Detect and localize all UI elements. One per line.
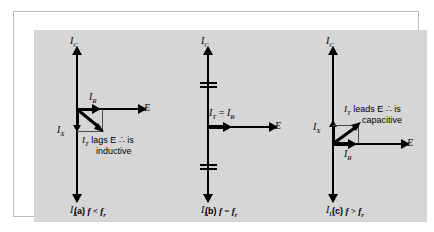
- panel-b-caption-expr: f = fr: [219, 206, 237, 216]
- panel-c-ir-label: IR: [344, 149, 352, 162]
- panel-b-ic-label: IC: [201, 36, 209, 49]
- panel-b: IC IL E IT = IR (b) f = fr: [165, 30, 296, 222]
- panel-c-annotation-is: is: [394, 104, 401, 114]
- panel-a-annotation-line2: inductive: [96, 146, 132, 157]
- figure-root: IC IL E IX IR IT lags E ∴: [0, 0, 434, 232]
- panel-a-ix-label: IX: [57, 125, 65, 138]
- panel-c-e-label: E: [407, 138, 413, 148]
- panel-b-it-arrowhead-icon: [223, 122, 232, 132]
- panel-a: IC IL E IX IR IT lags E ∴: [34, 30, 165, 222]
- panel-c-caption-prefix: (c): [332, 206, 343, 216]
- panel-a-it-phasor: [34, 30, 165, 222]
- panel-b-il-arrowhead-icon: [203, 194, 213, 203]
- panel-b-caption-prefix: (b): [205, 206, 217, 216]
- figure-gray-field: IC IL E IX IR IT lags E ∴: [34, 30, 427, 222]
- panel-c: IC IL E IX IR IT leads E ∴ is: [296, 30, 427, 222]
- panel-c-therefore-symbol: ∴: [386, 104, 392, 114]
- panel-c-annotation-line1: leads E: [353, 104, 383, 114]
- panel-a-ir-label: IR: [89, 92, 97, 105]
- panel-b-it-equals-ir-label: IT = IR: [209, 108, 235, 121]
- panel-a-therefore-symbol: ∴: [119, 135, 125, 145]
- panel-b-tick-lower-1: [200, 164, 217, 166]
- panel-a-caption-expr: f < fr: [88, 206, 106, 216]
- panel-b-tick-lower-2: [200, 168, 217, 170]
- panel-a-it-label: IT: [82, 135, 89, 145]
- panel-a-caption: (a) f < fr: [74, 206, 106, 218]
- panel-b-caption: (b) f = fr: [205, 206, 237, 218]
- panel-a-annotation-line1: lags E: [91, 135, 116, 145]
- panel-b-tick-upper-2: [200, 86, 217, 88]
- panel-c-annotation-line2: capacitive: [362, 115, 402, 126]
- panel-c-it-label: IT: [344, 104, 351, 114]
- panel-a-caption-prefix: (a): [74, 206, 85, 216]
- panel-a-annotation-is: is: [127, 135, 134, 145]
- panel-c-ix-label: IX: [313, 122, 321, 135]
- panel-b-e-label: E: [275, 121, 281, 131]
- panel-b-tick-upper-1: [200, 82, 217, 84]
- panel-c-caption-expr: f > fr: [346, 206, 364, 216]
- figure-outer-frame: IC IL E IX IR IT lags E ∴: [13, 11, 419, 217]
- panel-c-ic-label: IC: [326, 36, 334, 49]
- panel-a-ic-label: IC: [70, 36, 78, 49]
- panel-a-e-label: E: [144, 103, 150, 113]
- panel-c-caption: (c) f > fr: [332, 206, 364, 218]
